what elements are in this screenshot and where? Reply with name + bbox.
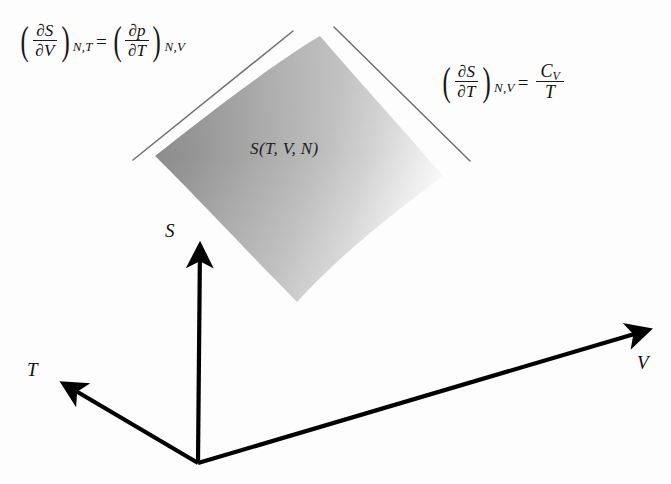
- equals-sign: =: [96, 32, 107, 51]
- paren-open-icon: (: [443, 66, 451, 98]
- paren-close-icon: ): [153, 25, 161, 57]
- paren-open-icon: (: [21, 25, 29, 57]
- subscript-v: V: [552, 69, 559, 83]
- partial-derivative-s-t: ∂S ∂T: [454, 63, 478, 100]
- paren-close-icon: ): [482, 66, 490, 98]
- axis-s: [198, 246, 200, 463]
- axes-group: [64, 246, 648, 463]
- equation-heat-capacity: ( ∂S ∂T ) N,V = CV T: [440, 62, 564, 101]
- subscript-constant-n-t: N,T: [73, 40, 93, 53]
- heat-capacity-over-temperature: CV T: [536, 62, 563, 101]
- diagram-graphics: [0, 0, 671, 484]
- equals-sign: =: [518, 73, 529, 92]
- axis-label-v: V: [637, 352, 649, 374]
- subscript-constant-n-v: N,V: [165, 40, 186, 53]
- paren-close-icon: ): [61, 25, 69, 57]
- axis-v: [198, 330, 648, 463]
- axis-label-s: S: [165, 220, 175, 242]
- surface-label: S(T, V, N): [250, 139, 319, 159]
- axis-t: [64, 384, 198, 463]
- heat-capacity-symbol: CV: [536, 62, 563, 82]
- equation-maxwell-relation: ( ∂S ∂V ) N,T = ( ∂p ∂T ) N,V: [18, 22, 185, 59]
- subscript-constant-n-v: N,V: [494, 81, 515, 94]
- diagram-canvas: ( ∂S ∂V ) N,T = ( ∂p ∂T ) N,V ( ∂S ∂T ) …: [0, 0, 671, 484]
- partial-derivative-s-v: ∂S ∂V: [32, 22, 57, 59]
- axis-label-t: T: [27, 359, 38, 381]
- paren-open-icon: (: [113, 25, 121, 57]
- partial-derivative-p-t: ∂p ∂T: [125, 22, 149, 59]
